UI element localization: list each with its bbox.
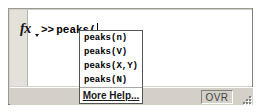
fx-icon[interactable]: fx (20, 21, 40, 38)
screen-root: fx >> peaks( OVR peaks(n) (0, 0, 261, 112)
list-item[interactable]: peaks(N) (80, 73, 142, 87)
status-badge-overwrite[interactable]: OVR (201, 90, 233, 104)
prompt-symbol: >> (41, 24, 54, 36)
autocomplete-footer: More Help... (80, 87, 142, 103)
resize-grip-icon[interactable] (239, 92, 251, 104)
autocomplete-popup[interactable]: peaks(n) peaks(V) peaks(X,Y) peaks(N) Mo… (79, 30, 143, 104)
list-item[interactable]: peaks(X,Y) (80, 59, 142, 73)
chevron-down-icon (35, 34, 39, 37)
list-item[interactable]: peaks(n) (80, 31, 142, 45)
list-item[interactable]: peaks(V) (80, 45, 142, 59)
fx-icon-glyph: fx (20, 21, 31, 36)
autocomplete-list[interactable]: peaks(n) peaks(V) peaks(X,Y) peaks(N) (80, 31, 142, 89)
more-help-link[interactable]: More Help... (83, 90, 140, 101)
